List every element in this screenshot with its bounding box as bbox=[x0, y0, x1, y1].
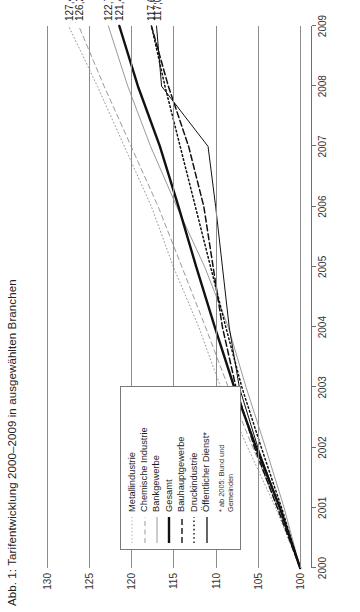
x-axis-tick-2009 bbox=[312, 25, 316, 26]
x-axis-tick-2002 bbox=[312, 447, 316, 448]
legend-item-metallindustrie[interactable]: Metallindustrie bbox=[126, 393, 138, 543]
legend-item-druckindustrie[interactable]: Druckindustrie bbox=[188, 393, 200, 543]
legend-item-label: Öffentlicher Dienst* bbox=[202, 432, 211, 512]
x-axis-label-2006: 2006 bbox=[317, 196, 328, 218]
x-axis-tick-2000 bbox=[312, 567, 316, 568]
x-axis-tick-2001 bbox=[312, 507, 316, 508]
end-value-label: 122,7 bbox=[103, 0, 114, 21]
x-axis bbox=[311, 26, 312, 568]
legend-item-label: Metallindustrie bbox=[128, 452, 137, 512]
chart-legend: MetallindustrieChemische IndustrieBankge… bbox=[120, 386, 241, 550]
legend-item-label: Gesamt bbox=[165, 479, 174, 512]
page-title: Abb. 1: Tarifentwicklung 2000–2009 in au… bbox=[6, 279, 18, 606]
x-axis-label-2001: 2001 bbox=[317, 497, 328, 519]
legend-item-label: Chemische Industrie bbox=[140, 427, 149, 512]
legend-item--ffentlicher-dienst[interactable]: Öffentlicher Dienst* bbox=[200, 393, 212, 543]
x-axis-tick-2005 bbox=[312, 266, 316, 267]
chart-figure: Abb. 1: Tarifentwicklung 2000–2009 in au… bbox=[0, 0, 360, 612]
y-axis-label-100: 100 bbox=[295, 573, 306, 590]
end-value-label: 126,2 bbox=[73, 0, 84, 21]
x-axis-label-2004: 2004 bbox=[317, 316, 328, 338]
x-axis-label-2009: 2009 bbox=[317, 15, 328, 37]
x-axis-label-2005: 2005 bbox=[317, 256, 328, 278]
end-value-label: 121,4 bbox=[114, 0, 125, 21]
x-axis-tick-2007 bbox=[312, 145, 316, 146]
y-axis-label-115: 115 bbox=[168, 573, 179, 589]
legend-swatch-icon bbox=[152, 517, 162, 543]
legend-item-bauhauptgewerbe[interactable]: Bauhauptgewerbe bbox=[176, 393, 188, 543]
legend-item-label: Bankgewerbe bbox=[152, 455, 161, 512]
x-axis-tick-2003 bbox=[312, 386, 316, 387]
x-axis-label-2007: 2007 bbox=[317, 135, 328, 157]
end-value-label: 117,0 bbox=[151, 0, 162, 21]
chart-stage: Abb. 1: Tarifentwicklung 2000–2009 in au… bbox=[0, 0, 360, 612]
legend-swatch-icon bbox=[177, 517, 187, 543]
legend-item-label: Bauhauptgewerbe bbox=[177, 437, 186, 512]
y-axis-label-130: 130 bbox=[41, 573, 52, 590]
x-axis-tick-2006 bbox=[312, 206, 316, 207]
legend-swatch-icon bbox=[140, 517, 150, 543]
y-axis-label-120: 120 bbox=[126, 573, 137, 590]
legend-swatch-icon bbox=[164, 517, 174, 543]
legend-footnote: * ab 2005: Bund und Gemeinden bbox=[217, 407, 236, 512]
y-axis-label-105: 105 bbox=[252, 573, 263, 590]
legend-item-bankgewerbe[interactable]: Bankgewerbe bbox=[151, 393, 163, 543]
legend-item-label: Druckindustrie bbox=[190, 453, 199, 512]
legend-swatch-icon bbox=[202, 517, 212, 543]
legend-swatch-icon bbox=[189, 517, 199, 543]
gridline-125 bbox=[89, 26, 90, 568]
legend-item-chemische-industrie[interactable]: Chemische Industrie bbox=[138, 393, 150, 543]
y-axis-label-125: 125 bbox=[83, 573, 94, 590]
x-axis-tick-2008 bbox=[312, 85, 316, 86]
gridline-105 bbox=[258, 26, 259, 568]
gridline-130 bbox=[47, 26, 48, 568]
y-axis-label-110: 110 bbox=[210, 573, 221, 589]
gridline-100 bbox=[300, 26, 301, 568]
x-axis-label-2000: 2000 bbox=[317, 557, 328, 579]
x-axis-label-2008: 2008 bbox=[317, 75, 328, 97]
legend-item-gesamt[interactable]: Gesamt bbox=[163, 393, 175, 543]
legend-swatch-icon bbox=[127, 517, 137, 543]
x-axis-tick-2004 bbox=[312, 326, 316, 327]
x-axis-label-2002: 2002 bbox=[317, 436, 328, 458]
x-axis-label-2003: 2003 bbox=[317, 376, 328, 398]
